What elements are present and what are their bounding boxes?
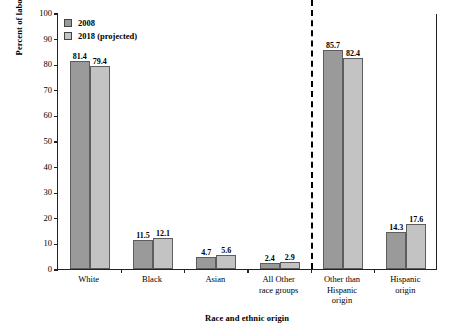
x-category-label-line: Black [120,274,183,285]
legend-swatch-icon [64,32,72,40]
bar: 14.3 [386,232,406,269]
bar: 82.4 [343,58,363,269]
y-tick-label: 40 [44,162,53,172]
plot-area: 0102030405060708090100 81.479.411.512.14… [57,14,437,270]
bar-value-label: 81.4 [73,53,87,61]
bar-value-label: 2.9 [285,254,295,262]
y-tick-label: 20 [44,213,53,223]
bar-group: 4.75.6 [185,14,248,269]
bar-value-label: 11.5 [136,232,150,240]
bar-group: 14.317.6 [375,14,438,269]
y-tick-label: 70 [44,85,53,95]
bar-groups: 81.479.411.512.14.75.62.42.985.782.414.3… [58,14,436,269]
legend: 2008 2018 (projected) [64,16,137,42]
bar-group: 81.479.4 [58,14,121,269]
legend-item-2008: 2008 [64,16,137,29]
x-category-label-line: Hispanic [310,285,373,296]
legend-label: 2008 [78,18,95,28]
x-tick-mark [184,269,185,273]
bar: 2.9 [280,262,300,269]
x-category-label: Other thanHispanicorigin [310,274,373,306]
bar-value-label: 79.4 [93,58,107,66]
bar: 85.7 [323,50,343,269]
y-tick-mark [54,269,58,270]
bar-value-label: 17.6 [409,216,423,224]
y-tick-label: 90 [44,34,53,44]
x-category-label: White [57,274,120,285]
bar-value-label: 85.7 [326,42,340,50]
bar-group: 2.42.9 [248,14,311,269]
legend-swatch-icon [64,19,72,27]
bar-value-label: 12.1 [156,230,170,238]
x-category-label-line: race groups [247,285,310,296]
bar-value-label: 4.7 [201,249,211,257]
x-tick-mark [311,269,312,273]
bar-group: 11.512.1 [121,14,184,269]
y-tick-label: 80 [44,59,53,69]
x-category-label-line: All Other [247,274,310,285]
bar: 4.7 [196,257,216,269]
x-category-label: Black [120,274,183,285]
y-tick-label: 60 [44,110,53,120]
bar-chart: Percent of labor force 01020304050607080… [0,0,469,331]
bar: 17.6 [406,224,426,269]
legend-item-2018: 2018 (projected) [64,29,137,42]
y-tick-label: 30 [44,187,53,197]
x-category-label: All Otherrace groups [247,274,310,295]
bar-group: 85.782.4 [311,14,374,269]
x-tick-mark [374,269,375,273]
bar-value-label: 14.3 [389,224,403,232]
x-category-label-line: Hispanic [374,274,437,285]
x-category-label-line: Asian [184,274,247,285]
y-axis-title: Percent of labor force [14,0,24,95]
legend-label: 2018 (projected) [78,31,137,41]
y-tick-label: 0 [48,264,52,274]
bar-value-label: 5.6 [221,247,231,255]
y-tick-label: 50 [44,136,53,146]
x-category-label-line: origin [374,285,437,296]
x-category-label: Asian [184,274,247,285]
bar-value-label: 2.4 [265,255,275,263]
bar: 5.6 [216,255,236,269]
bar: 2.4 [260,263,280,269]
x-axis-title: Race and ethnic origin [57,313,437,323]
x-tick-mark [121,269,122,273]
bar-value-label: 82.4 [346,50,360,58]
x-category-label-line: White [57,274,120,285]
y-tick-label: 100 [39,8,52,18]
x-category-label-line: origin [310,295,373,306]
bar: 12.1 [153,238,173,269]
bar: 79.4 [90,66,110,269]
y-tick-label: 10 [44,238,53,248]
bar: 81.4 [70,61,90,269]
bar: 11.5 [133,240,153,269]
x-category-label: Hispanicorigin [374,274,437,295]
x-tick-mark [247,269,248,273]
vertical-dashed-divider [311,0,313,269]
x-category-label-line: Other than [310,274,373,285]
